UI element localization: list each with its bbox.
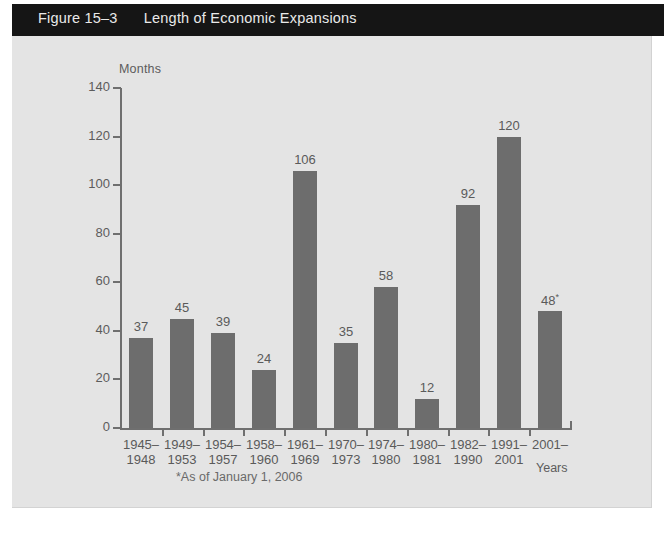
footnote-text: *As of January 1, 2006 bbox=[176, 470, 302, 484]
y-tick-label: 20 bbox=[72, 370, 110, 385]
bar[interactable] bbox=[334, 343, 358, 428]
y-tick-mark bbox=[113, 136, 121, 138]
bar[interactable] bbox=[252, 370, 276, 428]
x-axis-line bbox=[120, 428, 572, 430]
y-tick-label: 40 bbox=[72, 322, 110, 337]
bar[interactable] bbox=[170, 319, 194, 428]
x-label-line-1: 2001– bbox=[524, 437, 576, 452]
x-tick-mark bbox=[529, 428, 531, 436]
x-tick-mark bbox=[407, 428, 409, 436]
bar-value-label: 24 bbox=[236, 351, 292, 366]
bar-value-label: 58 bbox=[358, 268, 414, 283]
bar-value-label: 45 bbox=[154, 300, 210, 315]
bar-value-label: 92 bbox=[440, 186, 496, 201]
x-label-line-2: 2001 bbox=[483, 452, 535, 467]
x-tick-mark bbox=[243, 428, 245, 436]
y-tick-mark bbox=[113, 427, 121, 429]
bar-value-label: 39 bbox=[195, 314, 251, 329]
y-tick-label: 100 bbox=[72, 176, 110, 191]
x-tick-mark bbox=[203, 428, 205, 436]
bar[interactable] bbox=[374, 287, 398, 428]
y-tick-mark bbox=[113, 184, 121, 186]
page-bottom-caption bbox=[14, 524, 634, 533]
bar[interactable] bbox=[456, 205, 480, 428]
x-tick-mark bbox=[325, 428, 327, 436]
x-tick-mark bbox=[366, 428, 368, 436]
y-tick-mark bbox=[113, 233, 121, 235]
bar[interactable] bbox=[293, 171, 317, 428]
y-tick-label: 0 bbox=[72, 419, 110, 434]
x-tick-mark bbox=[448, 428, 450, 436]
bar[interactable] bbox=[211, 333, 235, 428]
x-axis-label: 2001– bbox=[524, 437, 576, 452]
y-tick-label: 80 bbox=[72, 225, 110, 240]
bar-value-label: 106 bbox=[277, 152, 333, 167]
y-tick-label: 60 bbox=[72, 273, 110, 288]
bar-value-label: 37 bbox=[113, 319, 169, 334]
x-tick-mark bbox=[284, 428, 286, 436]
bar-value-label: 35 bbox=[318, 324, 374, 339]
bar[interactable] bbox=[129, 338, 153, 428]
y-tick-mark bbox=[113, 378, 121, 380]
y-tick-label: 140 bbox=[72, 79, 110, 94]
y-axis-title: Months bbox=[119, 62, 161, 76]
bar-value-label: 120 bbox=[481, 118, 537, 133]
bar[interactable] bbox=[538, 311, 562, 428]
bar[interactable] bbox=[497, 137, 521, 428]
y-tick-mark bbox=[113, 87, 121, 89]
x-tick-mark bbox=[488, 428, 490, 436]
figure-container: Figure 15–3 Length of Economic Expansion… bbox=[0, 0, 664, 534]
bar-chart: Months 020406080100120140 37453924106355… bbox=[0, 0, 664, 534]
bar-value-label: 12 bbox=[399, 380, 455, 395]
x-axis-end-cap bbox=[570, 421, 572, 430]
x-tick-mark bbox=[162, 428, 164, 436]
y-tick-mark bbox=[113, 281, 121, 283]
bar[interactable] bbox=[415, 399, 439, 428]
y-tick-label: 120 bbox=[72, 128, 110, 143]
bar-value-label: 48* bbox=[522, 292, 578, 308]
x-axis-title: Years bbox=[536, 461, 568, 475]
